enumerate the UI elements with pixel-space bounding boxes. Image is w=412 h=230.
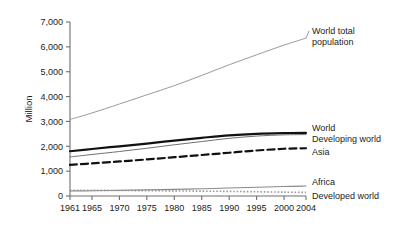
- x-tick-label: 1980: [164, 203, 184, 213]
- y-tick-label: 1,000: [40, 166, 63, 176]
- y-axis-title: Million: [23, 96, 34, 123]
- x-tick-label: 1975: [137, 203, 157, 213]
- x-tick-label: 1961: [60, 203, 80, 213]
- x-tick-label: 1995: [247, 203, 267, 213]
- x-tick-label: 1985: [192, 203, 212, 213]
- series-lines: [70, 38, 306, 192]
- y-tick-label: 6,000: [40, 42, 63, 52]
- y-tick-label: 2,000: [40, 142, 63, 152]
- series-label-world-total-population: World total: [312, 26, 355, 36]
- series-labels: World totalpopulationWorldDeveloping wor…: [306, 26, 381, 201]
- x-tick-label: 1970: [109, 203, 129, 213]
- series-line-world-total-population: [70, 38, 306, 119]
- series-line-asia: [70, 148, 306, 165]
- x-tick-label: 1965: [82, 203, 102, 213]
- population-line-chart: 01,0002,0003,0004,0005,0006,0007,000 196…: [0, 0, 412, 230]
- y-tick-label: 5,000: [40, 67, 63, 77]
- series-label-africa: Africa: [312, 177, 335, 187]
- series-label-developed-world: Developed world: [312, 191, 379, 201]
- x-axis: 1961196519701975198019851990199520002004: [60, 196, 316, 213]
- series-line-developing-world: [70, 135, 306, 157]
- y-tick-label: 4,000: [40, 92, 63, 102]
- world-total-leader-line: [306, 31, 309, 38]
- y-tick-label: 3,000: [40, 117, 63, 127]
- series-label-developing-world: Developing world: [312, 134, 381, 144]
- y-tick-label: 7,000: [40, 17, 63, 27]
- y-tick-label: 0: [58, 191, 63, 201]
- series-label-world-total-population: population: [312, 37, 354, 47]
- series-line-developed-world: [70, 190, 306, 192]
- series-label-asia: Asia: [312, 147, 330, 157]
- x-tick-label: 2000: [274, 203, 294, 213]
- chart-canvas: 01,0002,0003,0004,0005,0006,0007,000 196…: [0, 0, 412, 230]
- y-axis: 01,0002,0003,0004,0005,0006,0007,000: [40, 17, 70, 201]
- x-tick-label: 1990: [219, 203, 239, 213]
- y-axis-title-text: Million: [23, 96, 34, 123]
- x-tick-label: 2004: [296, 203, 316, 213]
- series-label-world: World: [312, 123, 335, 133]
